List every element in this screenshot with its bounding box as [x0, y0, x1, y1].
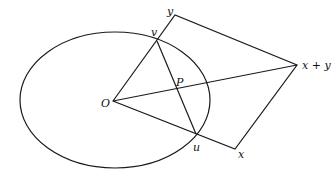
vector-diagram: y v P x + y O u x — [0, 0, 336, 178]
label-x: x — [238, 148, 245, 161]
diagonal-o-to-xy — [113, 65, 297, 101]
label-v: v — [151, 26, 158, 39]
parallelogram — [113, 15, 297, 149]
label-P: P — [175, 76, 184, 89]
diagram-canvas: y v P x + y O u x — [0, 0, 336, 178]
label-y: y — [166, 5, 174, 18]
label-O: O — [101, 97, 110, 110]
label-u: u — [193, 141, 200, 154]
label-x-plus-y: x + y — [302, 59, 331, 72]
